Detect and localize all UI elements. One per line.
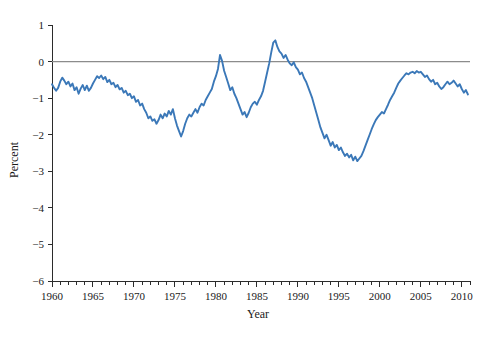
x-tick-label: 2000 <box>369 290 392 302</box>
x-tick-label: 1990 <box>287 290 310 302</box>
x-tick-label: 1985 <box>246 290 269 302</box>
y-tick-label: −2 <box>32 129 44 141</box>
y-axis-title: Percent <box>7 141 21 178</box>
y-tick-label: −5 <box>32 238 44 250</box>
x-tick-label: 1975 <box>164 290 187 302</box>
x-tick-label: 1980 <box>205 290 228 302</box>
chart-figure: 10−1−2−3−4−5−6 1960196519701975198019851… <box>0 0 486 337</box>
x-tick-label: 1965 <box>82 290 105 302</box>
plot-background <box>0 0 486 337</box>
x-tick-label: 1995 <box>328 290 351 302</box>
y-tick-label: −4 <box>32 202 44 214</box>
y-tick-label: 0 <box>39 56 45 68</box>
x-tick-label: 1960 <box>41 290 64 302</box>
y-tick-label: −1 <box>32 92 44 104</box>
line-chart-svg: 10−1−2−3−4−5−6 1960196519701975198019851… <box>0 0 486 337</box>
x-tick-label: 2005 <box>410 290 433 302</box>
y-tick-label: −6 <box>32 275 44 287</box>
y-tick-label: −3 <box>32 165 44 177</box>
y-tick-label: 1 <box>39 19 45 31</box>
x-axis-title: Year <box>247 307 269 321</box>
x-tick-label: 2010 <box>451 290 474 302</box>
x-tick-label: 1970 <box>123 290 146 302</box>
